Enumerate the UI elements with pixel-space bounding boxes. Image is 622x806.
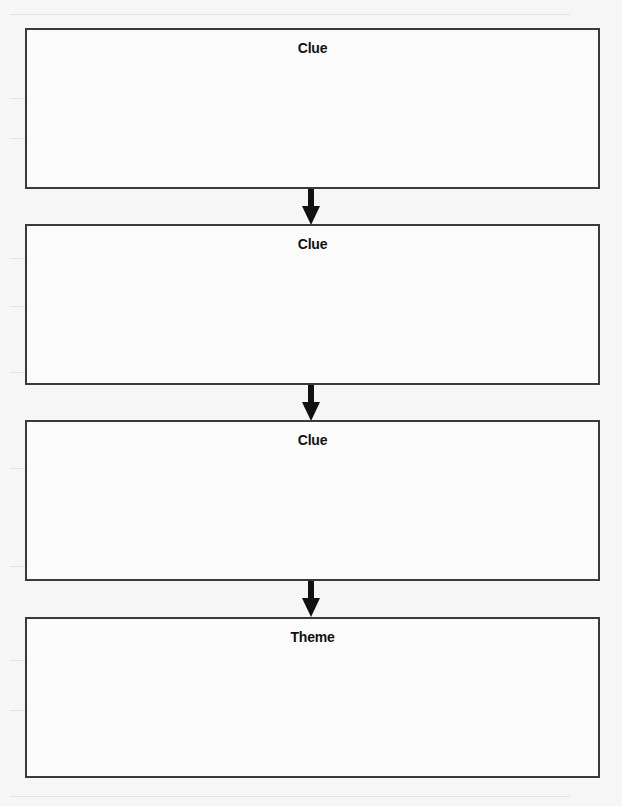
down-arrow-icon	[301, 385, 321, 421]
down-arrow-icon	[301, 581, 321, 617]
box-label: Clue	[27, 236, 598, 252]
box-label: Clue	[27, 40, 598, 56]
clue-box-3: Clue	[25, 420, 600, 581]
clue-box-1: Clue	[25, 28, 600, 189]
clue-box-2: Clue	[25, 224, 600, 385]
down-arrow-icon	[301, 189, 321, 225]
box-label: Clue	[27, 432, 598, 448]
box-label: Theme	[27, 629, 598, 645]
theme-box: Theme	[25, 617, 600, 778]
